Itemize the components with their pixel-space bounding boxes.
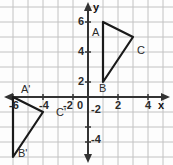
y-tick-label-4: 4 bbox=[78, 46, 84, 57]
x-tick-label-minus-4: -4 bbox=[39, 100, 49, 111]
y-tick-label-minus-2: -2 bbox=[91, 104, 101, 115]
x-tick-label-4: 4 bbox=[145, 100, 151, 111]
vertex-label-a-prime: A' bbox=[21, 84, 30, 95]
vertex-label-c-prime: C' bbox=[56, 107, 66, 118]
vertex-label-a: A bbox=[92, 27, 99, 38]
y-axis-name: y bbox=[93, 2, 99, 13]
y-axis-arrow-down bbox=[84, 154, 92, 163]
y-tick-label-6: 6 bbox=[78, 16, 84, 27]
vertex-label-b-prime: B' bbox=[18, 148, 27, 159]
y-tick-label-minus-4: -4 bbox=[91, 134, 101, 145]
x-tick-label-minus-6: -6 bbox=[9, 100, 19, 111]
x-axis-name: x bbox=[158, 100, 164, 111]
x-tick-label-zero: 0 bbox=[77, 100, 83, 111]
y-tick-label-2: 2 bbox=[78, 76, 84, 87]
x-tick-label-2: 2 bbox=[115, 100, 121, 111]
axes bbox=[6, 6, 166, 160]
vertex-label-b: B bbox=[99, 83, 106, 94]
coordinate-plane-figure: 6 4 2 -2 -4 -6 -4 -2 0 2 4 y x A B C A' … bbox=[0, 0, 173, 165]
vertex-label-c: C bbox=[137, 45, 145, 56]
